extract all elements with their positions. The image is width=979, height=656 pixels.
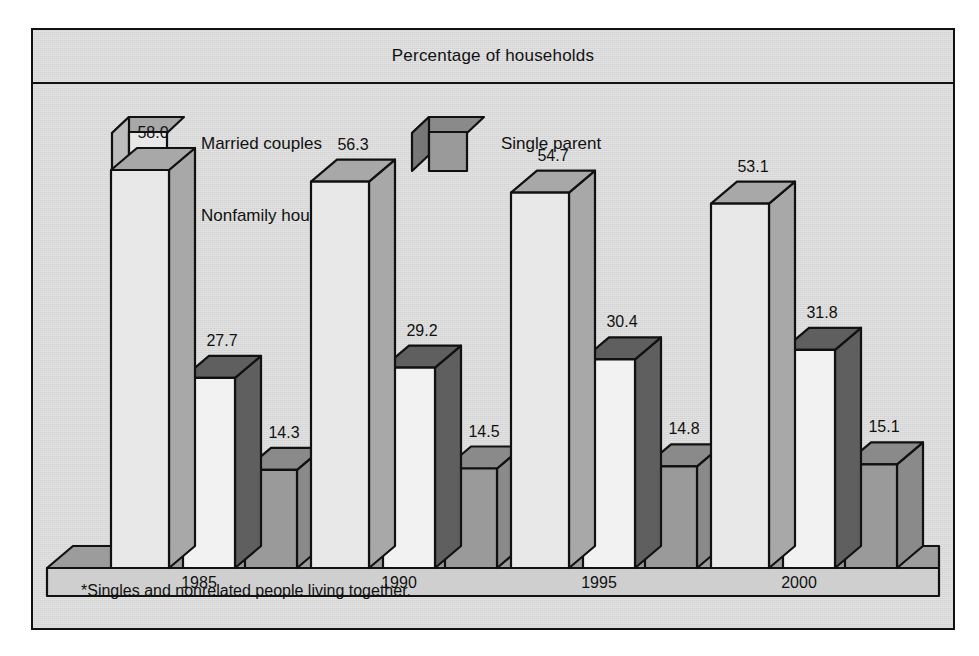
bar-value-label: 56.3 (337, 136, 368, 154)
bar-value-label: 54.7 (537, 147, 568, 165)
bar-married-couples-1990 (311, 160, 395, 568)
chart-image: Percentage of households Married couples (0, 0, 979, 656)
bar-front-face (111, 170, 169, 568)
bar-chart-graphic (33, 84, 953, 630)
bar-value-label: 31.8 (806, 304, 837, 322)
chart-title-bar: Percentage of households (33, 30, 953, 84)
bar-married-couples-1985 (111, 148, 195, 568)
bar-value-label: 14.3 (268, 424, 299, 442)
bar-value-label: 30.4 (606, 313, 637, 331)
bar-side-face (169, 148, 195, 568)
category-label-2000: 2000 (781, 574, 817, 592)
bar-side-face (235, 356, 261, 568)
bar-front-face (511, 193, 569, 568)
bar-value-label: 29.2 (406, 322, 437, 340)
bar-married-couples-1995 (511, 171, 595, 568)
bar-side-face (369, 160, 395, 568)
bar-side-face (635, 337, 661, 568)
bar-value-label: 14.8 (668, 420, 699, 438)
category-label-1995: 1995 (581, 574, 617, 592)
bar-value-label: 15.1 (868, 418, 899, 436)
bar-married-couples-2000 (711, 182, 795, 568)
bar-side-face (769, 182, 795, 568)
bar-front-face (311, 182, 369, 568)
bar-value-label: 58.0 (137, 124, 168, 142)
bar-side-face (435, 346, 461, 568)
bar-value-label: 27.7 (206, 332, 237, 350)
plot-area: 14.327.758.014.529.256.314.830.454.715.1… (33, 84, 953, 630)
chart-frame: Percentage of households Married couples (31, 28, 955, 630)
bar-side-face (569, 171, 595, 568)
chart-footnote: *Singles and nonrelated people living to… (81, 582, 411, 600)
page-title: Percentage of households (392, 46, 594, 66)
bar-value-label: 14.5 (468, 423, 499, 441)
bar-value-label: 53.1 (737, 158, 768, 176)
bar-side-face (835, 328, 861, 568)
bar-front-face (711, 204, 769, 568)
